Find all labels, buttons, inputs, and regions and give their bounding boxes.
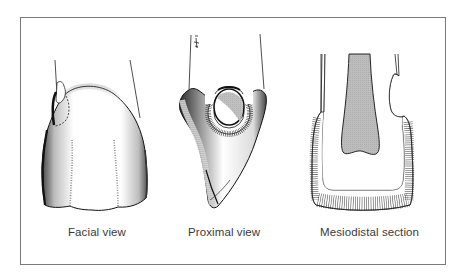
mesiodistal-section-drawing bbox=[312, 54, 413, 210]
facial-view-drawing bbox=[42, 60, 147, 210]
caption-facial-view: Facial view bbox=[68, 226, 126, 238]
artist-signature bbox=[194, 36, 199, 48]
caption-mesiodistal-section: Mesiodistal section bbox=[320, 226, 419, 238]
proximal-view-drawing bbox=[180, 34, 267, 208]
caption-proximal-view: Proximal view bbox=[188, 226, 260, 238]
